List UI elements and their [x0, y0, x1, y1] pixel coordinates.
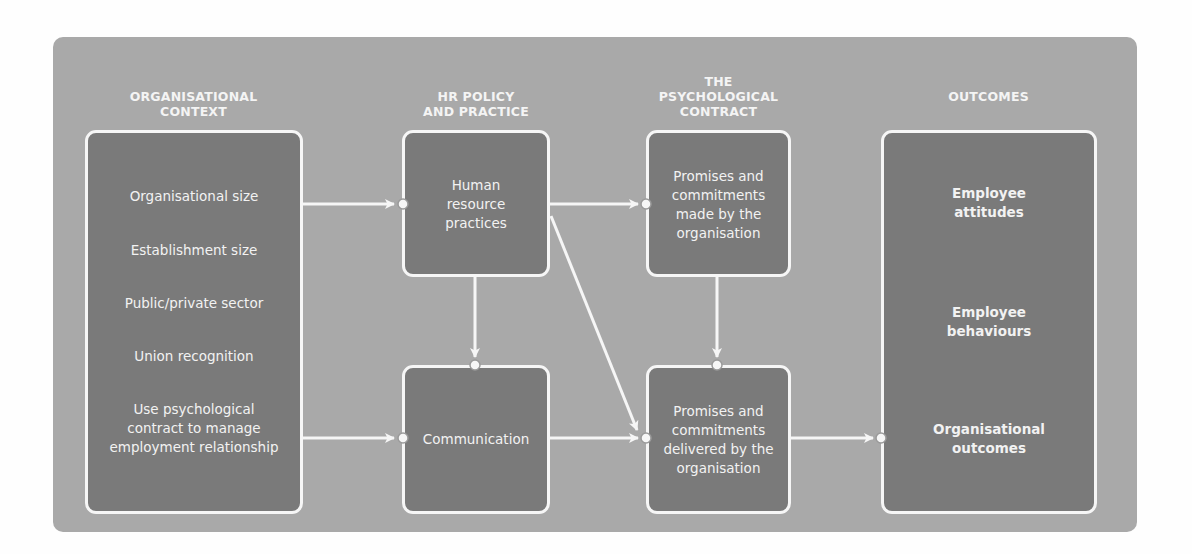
connector-dot — [876, 433, 886, 443]
connector-dot — [641, 199, 651, 209]
connector-dot — [398, 433, 408, 443]
connector-dot — [398, 199, 408, 209]
arrow-hr-to-promises-delivered — [551, 216, 637, 430]
arrows-layer — [0, 0, 1192, 554]
connector-dot — [641, 433, 651, 443]
connector-dot — [712, 360, 722, 370]
connector-dot — [470, 360, 480, 370]
